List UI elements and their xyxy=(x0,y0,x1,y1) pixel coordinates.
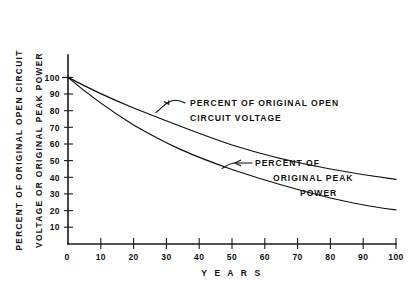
x-tick-label: 20 xyxy=(128,252,138,262)
y-axis-title-line2: VOLTAGE OR ORIGINAL PEAK POWER xyxy=(34,52,44,248)
voltage-annotation-line1: PERCENT OF ORIGINAL OPEN xyxy=(190,98,339,108)
power-annotation: PERCENT OF ORIGINAL PEAK POWER xyxy=(255,158,353,198)
y-axis-title-line1: PERCENT OF ORIGINAL OPEN CIRCUIT xyxy=(14,49,24,250)
y-tick-label: 90 xyxy=(50,89,60,99)
curve-open-circuit-voltage xyxy=(68,77,396,179)
y-tick-label: 30 xyxy=(50,189,60,199)
y-tick-label: 100 xyxy=(45,73,60,83)
power-annotation-line1: PERCENT OF xyxy=(255,158,320,168)
y-tick-label: 20 xyxy=(50,206,60,216)
x-tick-label: 0 xyxy=(64,252,69,262)
y-tick-label: 40 xyxy=(50,173,60,183)
chart-plot-area: 100 90 80 70 60 50 40 30 20 10 0 10 20 3… xyxy=(0,0,415,286)
y-tick-label: 70 xyxy=(50,123,60,133)
voltage-annotation-line2: CIRCUIT VOLTAGE xyxy=(190,113,282,123)
x-tick-label: 30 xyxy=(161,252,171,262)
power-annotation-line3: POWER xyxy=(300,188,337,198)
chart-figure: 100 90 80 70 60 50 40 30 20 10 0 10 20 3… xyxy=(0,0,415,286)
x-axis-tick-labels: 0 10 20 30 40 50 60 70 80 90 100 xyxy=(64,252,403,262)
x-tick-label: 90 xyxy=(358,252,368,262)
y-axis-tick-labels: 100 90 80 70 60 50 40 30 20 10 xyxy=(45,73,60,233)
x-tick-label: 60 xyxy=(260,252,270,262)
y-tick-label: 10 xyxy=(50,222,60,232)
y-tick-label: 60 xyxy=(50,139,60,149)
power-annotation-line2: ORIGINAL PEAK xyxy=(273,173,353,183)
x-tick-label: 50 xyxy=(227,252,237,262)
x-tick-label: 10 xyxy=(96,252,106,262)
x-tick-label: 100 xyxy=(388,252,403,262)
voltage-annotation: PERCENT OF ORIGINAL OPEN CIRCUIT VOLTAGE xyxy=(190,98,339,123)
voltage-leader-line xyxy=(156,100,185,112)
y-tick-label: 80 xyxy=(50,106,60,116)
x-tick-label: 40 xyxy=(194,252,204,262)
y-tick-label: 50 xyxy=(50,156,60,166)
x-axis-title: Y E A R S xyxy=(201,268,262,278)
x-tick-label: 80 xyxy=(325,252,335,262)
x-tick-label: 70 xyxy=(292,252,302,262)
